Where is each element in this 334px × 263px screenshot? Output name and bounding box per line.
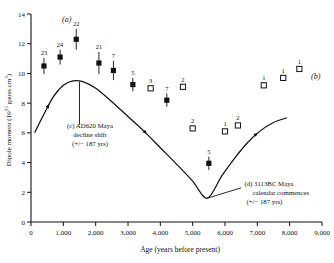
filled-square-marker <box>111 68 116 73</box>
y-tick-label: 0 <box>22 219 26 227</box>
open-square-marker <box>235 123 240 128</box>
x-axis-label: Age (years before present) <box>140 245 220 254</box>
y-tick-label: 14 <box>18 11 26 19</box>
filled-square-marker <box>96 60 101 65</box>
x-tick-label: 7,000 <box>249 229 265 237</box>
data-point-label: 2 <box>181 76 184 83</box>
data-point-label: 24 <box>57 41 64 48</box>
data-point-label: 1 <box>223 120 226 127</box>
filled-square-marker <box>58 54 63 59</box>
x-tick-label: 3,000 <box>120 229 136 237</box>
y-tick-label: 6 <box>22 129 26 137</box>
data-point-label: 1 <box>298 58 301 65</box>
open-square-marker <box>222 129 227 134</box>
y-tick-label: 4 <box>22 159 26 167</box>
y-tick-label: 12 <box>18 40 26 48</box>
panel-label-a: (a) <box>62 15 72 24</box>
annotation-c-line: decline shift <box>73 131 107 138</box>
annotation-c-line: (c) AD620 Maya <box>67 122 113 130</box>
x-tick-label: 6,000 <box>217 229 233 237</box>
x-tick-label: 9,000 <box>314 229 330 237</box>
filled-square-marker <box>164 98 169 103</box>
filled-square-marker <box>74 37 79 42</box>
open-square-marker <box>281 75 286 80</box>
open-square-marker <box>148 86 153 91</box>
open-square-marker <box>297 66 302 71</box>
y-axis-label: Dipole moment (1025 gauss cm3) <box>4 73 13 166</box>
data-point-label: 2 <box>236 114 239 121</box>
data-point-label: 2 <box>191 117 194 124</box>
x-tick-label: 5,000 <box>185 229 201 237</box>
annotation-d-line: (+/− 187 yrs) <box>246 198 282 206</box>
x-tick-label: 0 <box>29 229 33 237</box>
y-tick-label: 2 <box>22 189 26 197</box>
open-square-marker <box>261 83 266 88</box>
filled-square-marker <box>41 63 46 68</box>
curve-label-b: (b) <box>311 72 321 81</box>
x-tick-label: 8,000 <box>282 229 298 237</box>
data-point-label: 22 <box>73 20 80 27</box>
data-point-label: 23 <box>41 49 48 56</box>
y-tick-label: 8 <box>22 100 26 108</box>
x-tick-label: 4,000 <box>152 229 168 237</box>
x-tick-label: 1,000 <box>55 229 71 237</box>
dipole-moment-chart: 02468101214 01,0002,0003,0004,0005,0006,… <box>0 0 334 263</box>
filled-square-marker <box>206 161 211 166</box>
annotation-d-line: (d) 3113BC Maya <box>244 180 293 188</box>
data-point-label: 1 <box>282 67 285 74</box>
filled-square-marker <box>130 82 135 87</box>
data-point-label: 5 <box>207 148 210 155</box>
x-tick-label: 2,000 <box>88 229 104 237</box>
data-point-label: 1 <box>262 74 265 81</box>
figure-container: 02468101214 01,0002,0003,0004,0005,0006,… <box>0 0 334 263</box>
data-point-label: 21 <box>96 43 103 50</box>
open-square-marker <box>190 126 195 131</box>
y-tick-label: 10 <box>18 70 26 78</box>
annotation-d-line: calendar commences <box>252 189 309 196</box>
open-square-marker <box>180 84 185 89</box>
data-point-label: 5 <box>131 69 134 76</box>
annotation-c-line: (+/− 187 yrs) <box>72 140 108 148</box>
plot-background <box>0 0 334 263</box>
data-point-label: 3 <box>149 77 152 84</box>
